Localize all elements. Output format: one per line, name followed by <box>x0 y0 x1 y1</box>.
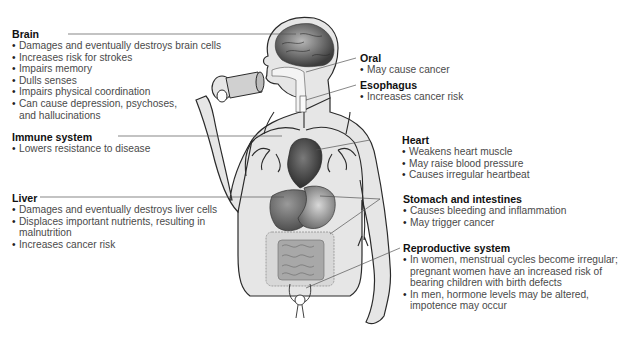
brain-title: Brain <box>12 28 252 40</box>
stomach-effects-list: Causes bleeding and inflammation May tri… <box>403 205 613 228</box>
liver-title: Liver <box>12 192 232 204</box>
oral-effects-list: May cause cancer <box>360 64 520 76</box>
esophagus-effect: Increases cancer risk <box>360 91 520 103</box>
heart-effect: Weakens heart muscle <box>402 146 582 158</box>
reproductive-effect: In women, menstrual cycles become irregu… <box>403 254 621 289</box>
reproductive-title: Reproductive system <box>403 242 621 254</box>
reproductive-effect: In men, hormone levels may be altered, i… <box>403 289 595 312</box>
oral-title: Oral <box>360 52 520 64</box>
intestines-organ <box>266 232 334 286</box>
esophagus-title: Esophagus <box>360 79 520 91</box>
brain-effect: Impairs memory <box>12 63 252 75</box>
liver-effect: Displaces important nutrients, resulting… <box>12 216 232 239</box>
brain-effect: Can cause depression, psychoses, and hal… <box>12 98 184 121</box>
immune-title: Immune system <box>12 131 212 143</box>
heart-effects-list: Weakens heart muscle May raise blood pre… <box>402 146 582 181</box>
alcohol-effects-diagram: Brain Damages and eventually destroys br… <box>0 0 623 346</box>
reproductive-effects-list: In women, menstrual cycles become irregu… <box>403 254 621 312</box>
immune-effect: Lowers resistance to disease <box>12 143 212 155</box>
stomach-title: Stomach and intestines <box>403 193 613 205</box>
liver-effects-list: Damages and eventually destroys liver ce… <box>12 204 232 250</box>
brain-effects-list: Damages and eventually destroys brain ce… <box>12 40 252 121</box>
liver-effect: Increases cancer risk <box>12 239 232 251</box>
heart-effect: May raise blood pressure <box>402 158 582 170</box>
label-liver: Liver Damages and eventually destroys li… <box>12 192 232 250</box>
brain-effect: Damages and eventually destroys brain ce… <box>12 40 252 52</box>
stomach-effect: Causes bleeding and inflammation <box>403 205 613 217</box>
label-oral: Oral May cause cancer <box>360 52 520 76</box>
esophagus-effects-list: Increases cancer risk <box>360 91 520 103</box>
label-heart: Heart Weakens heart muscle May raise blo… <box>402 134 582 181</box>
stomach-effect: May trigger cancer <box>403 217 613 229</box>
label-stomach-intestines: Stomach and intestines Causes bleeding a… <box>403 193 613 228</box>
oral-effect: May cause cancer <box>360 64 520 76</box>
liver-effect: Damages and eventually destroys liver ce… <box>12 204 232 216</box>
brain-effect: Dulls senses <box>12 75 252 87</box>
brain-effect: Increases risk for strokes <box>12 52 252 64</box>
label-esophagus: Esophagus Increases cancer risk <box>360 79 520 103</box>
heart-effect: Causes irregular heartbeat <box>402 169 582 181</box>
immune-effects-list: Lowers resistance to disease <box>12 143 212 155</box>
brain-effect: Impairs physical coordination <box>12 86 252 98</box>
label-reproductive-system: Reproductive system In women, menstrual … <box>403 242 621 312</box>
label-immune-system: Immune system Lowers resistance to disea… <box>12 131 212 155</box>
heart-title: Heart <box>402 134 582 146</box>
label-brain: Brain Damages and eventually destroys br… <box>12 28 252 121</box>
